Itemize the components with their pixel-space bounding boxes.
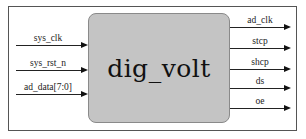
arrow-right-icon [81, 42, 88, 48]
signal-label: stcp [232, 36, 288, 46]
signal-line [16, 94, 82, 95]
arrow-right-icon [81, 67, 88, 73]
signal-line [230, 69, 285, 70]
arrow-right-icon [284, 24, 291, 30]
signal-label: ad_data[7:0] [16, 82, 80, 92]
signal-label: ad_clk [232, 15, 288, 25]
signal-line [16, 45, 82, 46]
signal-label: oe [232, 96, 288, 106]
signal-label: ds [232, 76, 288, 86]
signal-line [16, 70, 82, 71]
arrow-right-icon [284, 85, 291, 91]
arrow-right-icon [284, 45, 291, 51]
signal-line [230, 48, 285, 49]
signal-label: sys_rst_n [16, 58, 80, 68]
signal-line [230, 88, 285, 89]
arrow-right-icon [284, 66, 291, 72]
arrow-right-icon [284, 105, 291, 111]
module-block: dig_volt [88, 13, 230, 123]
module-name: dig_volt [107, 54, 211, 83]
signal-label: sys_clk [16, 33, 80, 43]
signal-label: shcp [232, 57, 288, 67]
arrow-right-icon [81, 91, 88, 97]
signal-line [230, 27, 285, 28]
signal-line [230, 108, 285, 109]
